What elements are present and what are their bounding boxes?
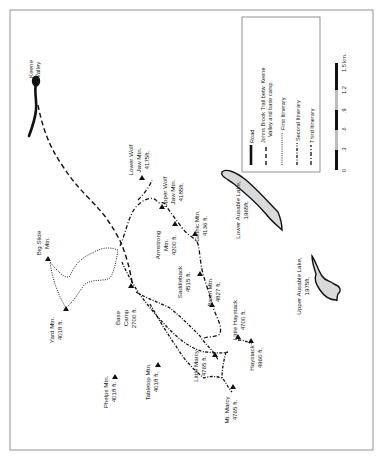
- label-lower-wolf-jaw-1: Lower Wolf: [127, 144, 134, 175]
- label-little-marcy-2: 4765 ft.: [200, 355, 207, 376]
- label-tabletop-2: 4018 ft.: [152, 371, 159, 392]
- legend-box: [242, 17, 320, 172]
- label-little-marcy-1: Little Marcy: [192, 349, 199, 382]
- label-gothics-1: Gothic Mtn.: [193, 210, 200, 242]
- label-armstrong-1: Armstrong: [154, 230, 161, 259]
- label-gothics-2: 4136 ft.: [201, 215, 208, 236]
- label-big-slide-2: Mtn.: [43, 237, 50, 249]
- label-armstrong-3: 4200 ft.: [170, 234, 177, 255]
- scale-tick-1-2: 1.2: [341, 86, 347, 94]
- label-base-camp-2: Camp: [122, 309, 129, 326]
- label-upper-ausable-1: Upper Ausable Lake,: [295, 257, 302, 315]
- label-keene-valley-1: Keene: [27, 60, 34, 78]
- label-keene-valley-2: Valley: [34, 61, 41, 78]
- label-saddleback-1: Saddleback: [176, 265, 183, 298]
- svg-text:KeeneValley: KeeneValley: [27, 60, 41, 78]
- label-yard-2: 4018 ft.: [56, 319, 63, 340]
- scale-tick-0-3: .3: [341, 147, 347, 152]
- label-basin-2: 4827 ft.: [214, 281, 221, 302]
- label-phelps-2: 4018 ft.: [110, 381, 117, 402]
- label-base-camp-3: 2700 ft.: [130, 307, 137, 328]
- label-upper-wolf-jaw-2: Jaw Mtn.: [169, 179, 176, 204]
- label-basin-1: Basin Mtn.: [206, 277, 213, 307]
- scale-tick-0-6: .6: [341, 127, 347, 132]
- legend-first-itinerary-label: First Itinerary: [280, 97, 286, 130]
- label-haystack-1: Haystack: [248, 344, 255, 370]
- label-armstrong-2: Mtn.: [162, 239, 169, 251]
- scale-tick-0-9: .9: [341, 108, 347, 113]
- label-mt-marcy-2: 4765 ft.: [231, 399, 238, 420]
- legend-johns-brook-label-1: Johns Brook Trail betw. Keene: [260, 67, 266, 143]
- label-base-camp-1: Base: [114, 310, 121, 325]
- label-mt-marcy-1: Mt. Marcy: [223, 396, 230, 424]
- svg-text:Yard Mtn.4018 ft.: Yard Mtn.4018 ft.: [48, 317, 63, 344]
- label-little-haystack-2: 4700 ft.: [239, 309, 246, 330]
- label-upper-wolf-jaw-1: Upper Wolf: [161, 176, 168, 207]
- scale-tick-0: 0: [341, 169, 347, 172]
- scale-tick-1-5: 1.5 km.: [341, 53, 347, 72]
- label-saddleback-2: 4515 ft.: [184, 271, 191, 292]
- legend: Road Johns Brook Trail betw. KeeneValley…: [242, 17, 320, 172]
- legend-second-itinerary-label: Second Itinerary: [295, 100, 301, 141]
- label-little-haystack-1: Little Haystack: [231, 299, 238, 340]
- svg-text:Haystack4960 ft.: Haystack4960 ft.: [248, 344, 263, 370]
- label-upper-wolf-jaw-3: 4185ft.: [177, 182, 184, 201]
- label-lower-ausable-1: Lower Ausable Lake,: [234, 181, 241, 239]
- label-upper-ausable-2: 1975ft.: [303, 276, 310, 295]
- label-lower-ausable-2: 1965ft.: [242, 200, 249, 219]
- label-haystack-2: 4960 ft.: [256, 347, 263, 368]
- label-lower-wolf-jaw-2: Jaw Mtn.: [135, 147, 142, 172]
- label-yard-1: Yard Mtn.: [48, 317, 55, 344]
- legend-johns-brook-label-2: Valley and base camp: [267, 82, 273, 137]
- legend-road-label: Road: [249, 130, 255, 143]
- legend-third-itinerary-label: Third Itinerary: [309, 108, 315, 143]
- label-phelps-1: Phelps Mtn.: [102, 375, 109, 408]
- svg-text:Mt. Marcy4765 ft.: Mt. Marcy4765 ft.: [223, 396, 238, 424]
- label-lower-wolf-jaw-3: 4175ft.: [143, 150, 150, 169]
- label-big-slide-1: Big Slide: [35, 230, 42, 255]
- trail-map: KeeneValley BaseCamp2700 ft. Big SlideMt…: [0, 0, 383, 460]
- label-tabletop-1: Tabletop Mtn.: [144, 363, 151, 400]
